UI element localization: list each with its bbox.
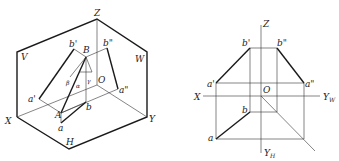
label-V: V [21,52,29,62]
projection-a2b2 [277,48,304,83]
label-W: W [135,54,145,64]
label-Z: Z [262,19,270,29]
label-Z: Z [93,8,101,18]
label-a-dprime: a" [305,79,315,89]
label-alpha: α [76,82,80,89]
label-X: X [4,116,12,126]
projection-a2b2 [107,48,118,89]
orthographic-figure: Z X O YW YH b' b" a' a" b a [193,19,336,159]
label-b-prime: b' [69,39,77,49]
label-a-prime: a' [207,79,215,89]
label-O: O [98,75,106,85]
label-X: X [193,92,201,102]
label-gamma: γ [87,77,91,85]
label-A: A [54,110,62,120]
label-O: O [263,85,271,95]
projection-a1b1 [216,48,250,83]
label-b-dprime: b" [103,38,113,48]
label-b-prime: b' [242,38,250,48]
label-H: H [65,137,74,147]
axonometric-figure: Z V W X Y H O b' B b" a' a" A a b α β γ [4,8,156,149]
label-YH: YH [264,148,276,159]
label-b: b [242,105,248,115]
label-a: a [208,133,213,143]
diagram-canvas: Z V W X Y H O b' B b" a' a" A a b α β γ [0,0,339,161]
label-a-dprime: a" [119,85,129,95]
projection-a1b1 [39,49,74,99]
label-B: B [82,45,90,55]
hexagon-outline [17,19,147,149]
label-a: a [58,123,63,133]
label-Y: Y [149,114,156,124]
label-b-dprime: b" [277,38,287,48]
angle-line-gamma [86,57,92,72]
label-YW: YW [323,92,336,103]
label-beta: β [65,79,70,87]
label-a-prime: a' [28,94,36,104]
projection-ab [216,112,250,139]
diagonal-45-line [261,96,315,151]
label-b: b [86,102,92,112]
